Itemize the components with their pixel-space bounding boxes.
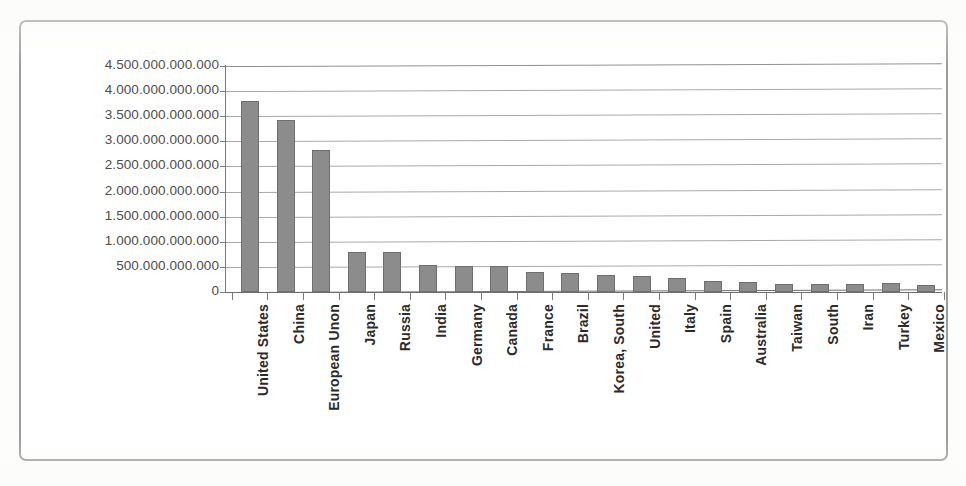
gridline xyxy=(226,63,942,67)
x-axis-label-text: Iran xyxy=(860,304,876,330)
x-axis-category-label: Spain xyxy=(718,304,734,343)
bar xyxy=(597,275,615,292)
y-axis-tick-label: 3.000.000.000.000 xyxy=(69,132,219,147)
x-axis-category-label: Australia xyxy=(753,304,769,366)
gridline xyxy=(226,164,942,168)
gridline xyxy=(226,264,942,268)
x-axis-category-labels: United StatesChinaEuropean UnonJapanRuss… xyxy=(226,304,966,434)
x-axis-category-label: Mexico xyxy=(931,304,947,353)
y-axis-tick xyxy=(220,66,226,67)
x-axis-tick xyxy=(837,292,838,300)
x-axis-category-label: Brazil xyxy=(575,304,591,343)
y-axis-tick xyxy=(220,242,226,243)
x-axis-category-label: South xyxy=(825,304,841,345)
x-axis-ticks xyxy=(226,292,942,301)
gridline xyxy=(226,139,942,143)
x-axis-tick xyxy=(873,292,874,300)
x-axis-category-label: Japan xyxy=(362,304,378,345)
bar xyxy=(526,272,544,292)
gridline xyxy=(226,239,942,243)
bar xyxy=(668,278,686,292)
y-axis-tick-label: 4.500.000.000.000 xyxy=(69,57,219,72)
bar xyxy=(561,273,579,292)
bar xyxy=(241,101,259,292)
x-axis-tick xyxy=(552,292,553,300)
y-axis-tick-labels: 4.500.000.000.0004.000.000.000.0003.500.… xyxy=(61,22,219,486)
y-axis-tick xyxy=(220,166,226,167)
x-axis-category-label: China xyxy=(291,304,307,344)
x-axis-tick xyxy=(232,292,233,300)
x-axis-tick xyxy=(481,292,482,300)
x-axis-category-label: Taiwan xyxy=(789,304,805,352)
x-axis-category-label: United xyxy=(647,304,663,349)
bar xyxy=(383,252,401,292)
x-axis-label-text: European Unon xyxy=(326,304,342,411)
x-axis-tick xyxy=(623,292,624,300)
x-axis-tick xyxy=(445,292,446,300)
bar xyxy=(312,150,330,292)
bar xyxy=(419,265,437,292)
x-axis-category-label: Germany xyxy=(469,304,485,366)
x-axis-line xyxy=(226,292,942,293)
gridline xyxy=(226,214,942,218)
x-axis-category-label: Russia xyxy=(397,304,413,351)
plot-area xyxy=(226,66,942,292)
x-axis-tick xyxy=(267,292,268,300)
gridline xyxy=(226,88,942,92)
x-axis-tick xyxy=(374,292,375,300)
x-axis-tick xyxy=(801,292,802,300)
bar xyxy=(704,281,722,292)
chart-frame: 4.500.000.000.0004.000.000.000.0003.500.… xyxy=(19,20,948,461)
x-axis-category-label: Italy xyxy=(682,304,698,333)
x-axis-label-text: France xyxy=(540,304,556,351)
x-axis-label-text: Japan xyxy=(362,304,378,345)
y-axis-tick xyxy=(220,217,226,218)
x-axis-category-label: Canada xyxy=(504,304,520,356)
y-axis-tick-label: 3.500.000.000.000 xyxy=(69,107,219,122)
bar xyxy=(633,276,651,292)
x-axis-label-text: Italy xyxy=(682,304,698,333)
x-axis-tick xyxy=(410,292,411,300)
y-axis-tick-label: 2.000.000.000.000 xyxy=(69,183,219,198)
bar xyxy=(490,266,508,292)
y-axis-tick-label: 500.000.000.000 xyxy=(69,258,219,273)
bar xyxy=(846,284,864,292)
x-axis-label-text: Spain xyxy=(718,304,734,343)
x-axis-label-text: Korea, South xyxy=(611,304,627,394)
x-axis-tick xyxy=(944,292,945,300)
x-axis-label-text: Australia xyxy=(753,304,769,366)
x-axis-category-label: India xyxy=(433,304,449,338)
x-axis-tick xyxy=(908,292,909,300)
x-axis-category-label: United States xyxy=(255,304,271,396)
bar xyxy=(882,283,900,292)
bar xyxy=(348,252,366,292)
gridline xyxy=(226,189,942,193)
x-axis-category-label: France xyxy=(540,304,556,351)
y-axis-tick xyxy=(220,292,226,293)
bar xyxy=(917,285,935,292)
x-axis-label-text: United States xyxy=(255,304,271,396)
x-axis-tick xyxy=(588,292,589,300)
y-axis-tick xyxy=(220,267,226,268)
x-axis-tick xyxy=(659,292,660,300)
x-axis-tick xyxy=(517,292,518,300)
x-axis-label-text: Germany xyxy=(469,304,485,366)
bar xyxy=(277,120,295,292)
x-axis-category-label: European Unon xyxy=(326,304,342,411)
x-axis-label-text: Russia xyxy=(397,304,413,351)
x-axis-category-label: Iran xyxy=(860,304,876,330)
y-axis-tick xyxy=(220,116,226,117)
x-axis-label-text: Canada xyxy=(504,304,520,356)
y-axis-tick xyxy=(220,192,226,193)
bar xyxy=(739,282,757,292)
y-axis-tick xyxy=(220,141,226,142)
bar xyxy=(811,284,829,292)
x-axis-tick xyxy=(730,292,731,300)
y-axis-tick-label: 1.000.000.000.000 xyxy=(69,233,219,248)
x-axis-tick xyxy=(339,292,340,300)
x-axis-category-label: Turkey xyxy=(896,304,912,350)
screenshot-page: 4.500.000.000.0004.000.000.000.0003.500.… xyxy=(0,0,966,486)
x-axis-label-text: Turkey xyxy=(896,304,912,350)
y-axis-tick-label: 2.500.000.000.000 xyxy=(69,157,219,172)
x-axis-tick xyxy=(766,292,767,300)
